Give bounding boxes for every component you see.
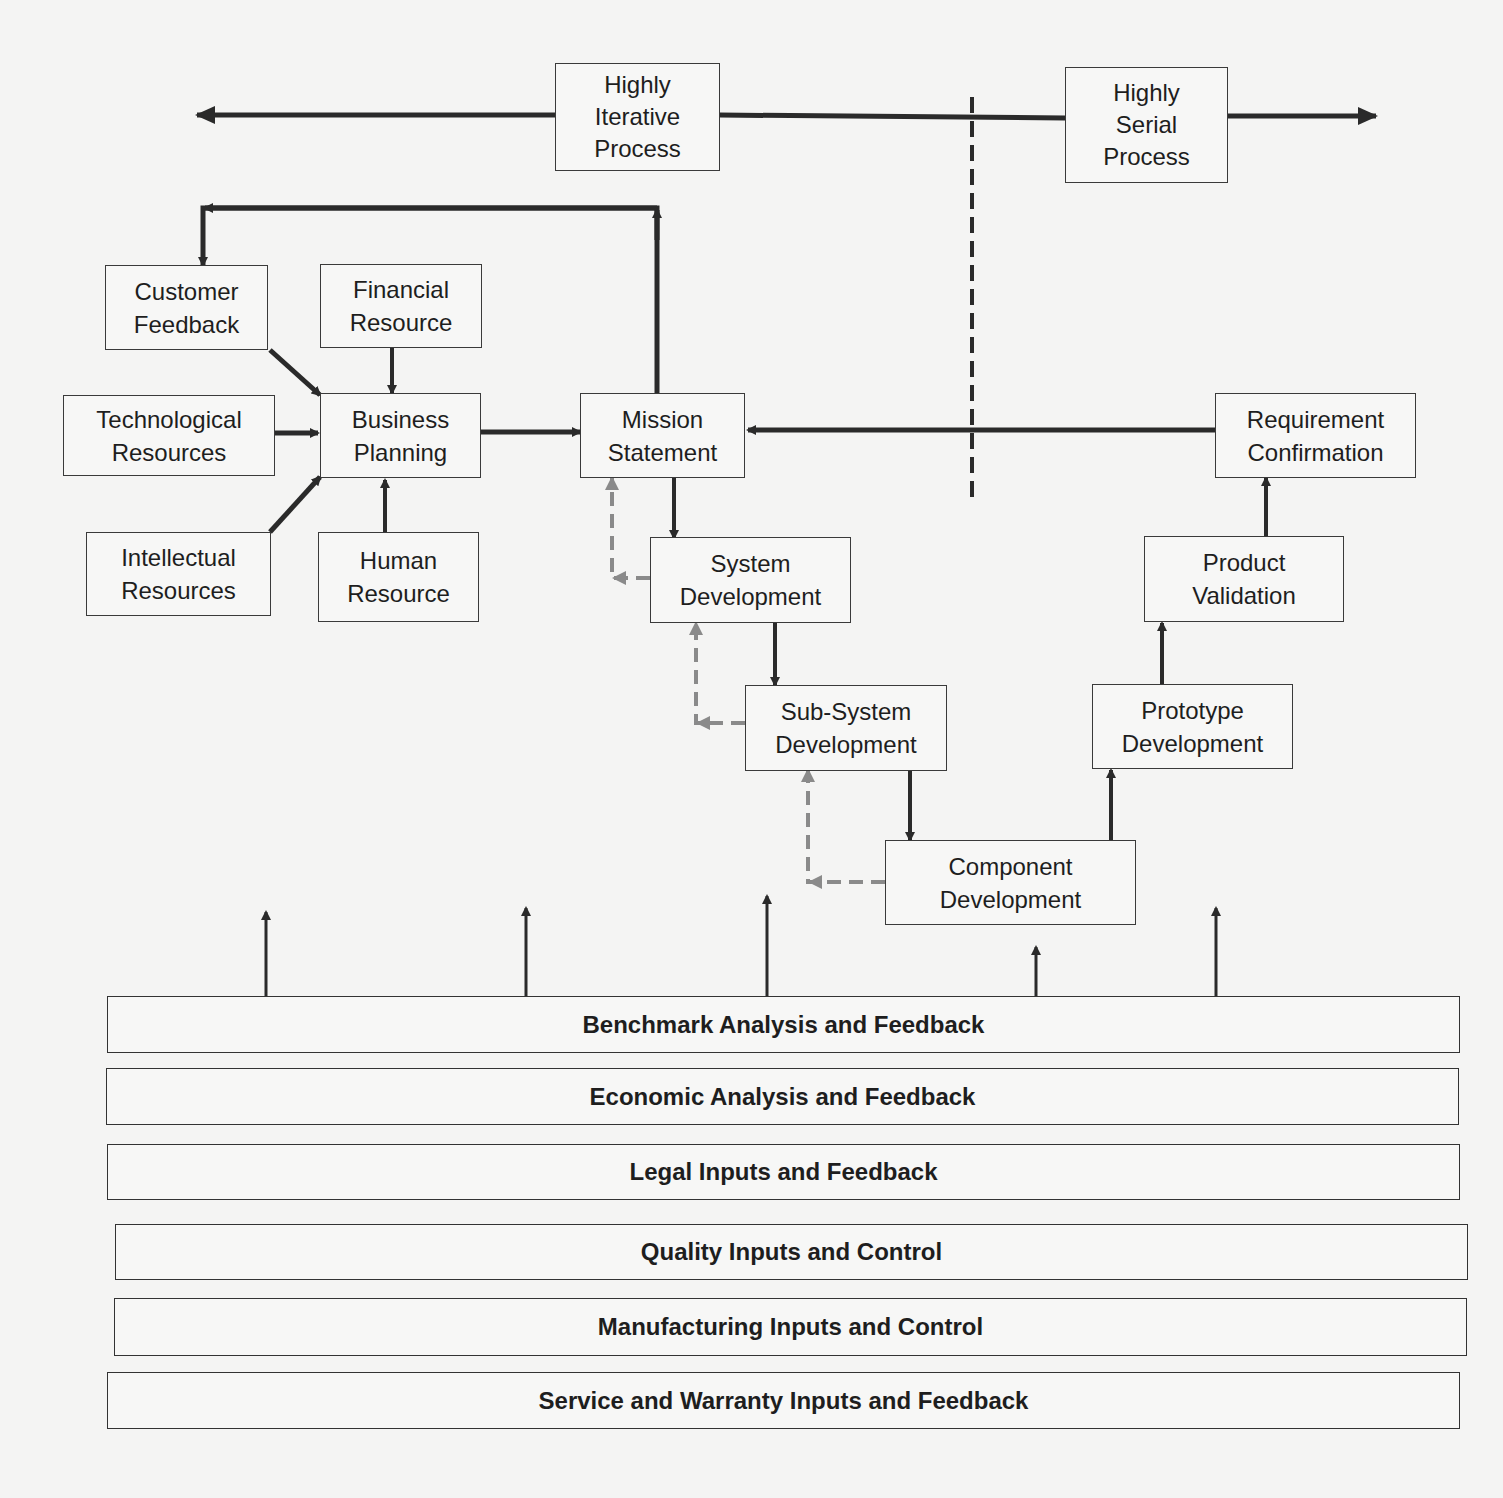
- band-legal-inputs: Legal Inputs and Feedback: [107, 1144, 1460, 1200]
- mission-statement-box: Mission Statement: [580, 393, 745, 478]
- product-development-diagram: Highly Iterative Process Highly Serial P…: [0, 0, 1503, 1498]
- prototype-development-box: Prototype Development: [1092, 684, 1293, 769]
- highly-serial-process-box: Highly Serial Process: [1065, 67, 1228, 183]
- band-quality-inputs: Quality Inputs and Control: [115, 1224, 1468, 1280]
- feedback-subsystem-to-system: [696, 623, 745, 723]
- requirement-confirmation-box: Requirement Confirmation: [1215, 393, 1416, 478]
- feedback-component-to-subsystem: [808, 770, 885, 882]
- intellectual-resources-box: Intellectual Resources: [86, 532, 271, 616]
- system-development-box: System Development: [650, 537, 851, 623]
- band-service-warranty: Service and Warranty Inputs and Feedback: [107, 1372, 1460, 1429]
- component-development-box: Component Development: [885, 840, 1136, 925]
- product-validation-box: Product Validation: [1144, 536, 1344, 622]
- highly-iterative-process-box: Highly Iterative Process: [555, 63, 720, 171]
- customer-feedback-box: Customer Feedback: [105, 265, 268, 350]
- arrow-intellectual-to-planning: [270, 477, 320, 532]
- band-economic-analysis: Economic Analysis and Feedback: [106, 1068, 1459, 1125]
- human-resource-box: Human Resource: [318, 532, 479, 622]
- arrow-customer-to-planning: [270, 350, 320, 395]
- technological-resources-box: Technological Resources: [63, 395, 275, 476]
- business-planning-box: Business Planning: [320, 393, 481, 478]
- feedback-system-to-mission: [612, 478, 650, 578]
- subsystem-development-box: Sub-System Development: [745, 685, 947, 771]
- financial-resource-box: Financial Resource: [320, 264, 482, 348]
- band-manufacturing-inputs: Manufacturing Inputs and Control: [114, 1298, 1467, 1356]
- band-benchmark-analysis: Benchmark Analysis and Feedback: [107, 996, 1460, 1053]
